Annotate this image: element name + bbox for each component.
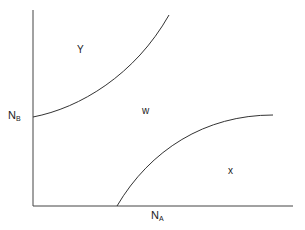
phase-diagram bbox=[0, 0, 305, 230]
region-x-label: x bbox=[228, 166, 233, 176]
y-axis-label: NB bbox=[8, 110, 21, 122]
upper-boundary-curve bbox=[33, 15, 169, 117]
lower-boundary-curve bbox=[117, 115, 273, 206]
x-axis-label: NA bbox=[151, 210, 164, 222]
region-w-label: w bbox=[142, 106, 149, 116]
region-y-label: Y bbox=[77, 45, 84, 55]
